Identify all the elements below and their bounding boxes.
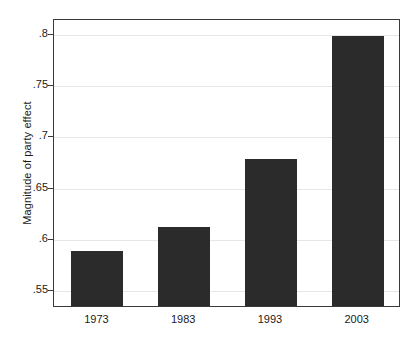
bar-1983[interactable] <box>158 227 210 307</box>
x-tick-label-1973: 1973 <box>53 313 140 325</box>
y-tick-mark-.55 <box>48 290 54 291</box>
y-tick-mark-.75 <box>48 85 54 86</box>
y-tick-label-.8: .8 <box>20 28 48 39</box>
x-tick-label-2003: 2003 <box>313 313 400 325</box>
y-axis-tick-labels: .55.6.65.7.75.8 <box>18 0 48 346</box>
y-tick-label-.55: .55 <box>20 284 48 295</box>
bar-2003[interactable] <box>332 36 384 307</box>
y-tick-label-.6: .6 <box>20 233 48 244</box>
y-tick-mark-.6 <box>48 239 54 240</box>
x-tick-label-1983: 1983 <box>140 313 227 325</box>
y-tick-mark-.65 <box>48 188 54 189</box>
y-tick-label-.7: .7 <box>20 130 48 141</box>
bar-1993[interactable] <box>245 159 297 307</box>
x-axis-tick-labels: 1973198319932003 <box>53 309 400 329</box>
y-tick-mark-.8 <box>48 34 54 35</box>
bar-chart-figure: Magnitude of party effect .55.6.65.7.75.… <box>0 0 411 346</box>
plot-area <box>53 19 400 307</box>
bar-1973[interactable] <box>71 251 123 307</box>
x-tick-label-1993: 1993 <box>227 313 314 325</box>
y-tick-label-.65: .65 <box>20 182 48 193</box>
y-tick-mark-.7 <box>48 136 54 137</box>
y-tick-label-.75: .75 <box>20 79 48 90</box>
